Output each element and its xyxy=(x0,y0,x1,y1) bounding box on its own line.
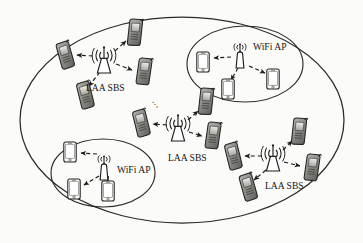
wifi-ap-top-right-icon[interactable] xyxy=(234,43,246,68)
link-ap-bl-sta1 xyxy=(81,153,97,154)
ue-phone-br-4[interactable] xyxy=(238,172,258,202)
ue-phone-br-3[interactable] xyxy=(302,152,322,182)
link-sbs-tl-ue1 xyxy=(77,55,93,56)
ue-phone-c-1[interactable] xyxy=(132,108,151,138)
link-sbs-c-ue3 xyxy=(189,132,202,136)
cluster-laa-sbs-bottom-right: LAA SBS xyxy=(224,116,322,202)
sta-tablet-tr-1[interactable] xyxy=(197,52,209,72)
link-sbs-tl-ue2 xyxy=(115,41,126,51)
wifi-ap-top-right-label: WiFi AP xyxy=(253,41,286,52)
ue-phone-tl-2[interactable] xyxy=(126,17,145,47)
link-ap-tr-sta2 xyxy=(231,68,238,80)
link-sbs-c-ue1 xyxy=(153,124,167,125)
link-sbs-c-ue2 xyxy=(188,111,198,120)
laa-sbs-center-icon[interactable] xyxy=(166,114,190,141)
network-topology-svg: LAA SBS LAA SBS xyxy=(0,0,363,243)
laa-sbs-bottom-right-icon[interactable] xyxy=(261,144,285,171)
link-sbs-br-ue3 xyxy=(284,162,300,166)
ue-phone-br-1[interactable] xyxy=(224,141,243,171)
link-sbs-tl-ue3 xyxy=(116,64,132,70)
ue-phone-tl-3[interactable] xyxy=(134,56,154,86)
ue-phone-c-3[interactable] xyxy=(203,120,223,150)
sta-tablet-tr-3[interactable] xyxy=(267,69,279,89)
wifi-ap-bottom-left-label: WiFi AP xyxy=(117,164,150,175)
link-ap-bl-sta2 xyxy=(84,176,99,185)
link-sbs-br-ue4 xyxy=(254,170,266,180)
link-ap-tr-sta3 xyxy=(249,66,265,73)
cluster-wifi-ap-bottom-left: WiFi AP xyxy=(64,142,151,201)
cluster-laa-sbs-center: LAA SBS xyxy=(132,86,223,163)
figure-canvas: LAA SBS LAA SBS xyxy=(0,0,363,243)
ue-phone-br-2[interactable] xyxy=(290,116,309,146)
laa-sbs-top-left-icon[interactable] xyxy=(92,46,116,73)
ue-phone-c-2[interactable] xyxy=(197,86,216,116)
sta-tablet-bl-2[interactable] xyxy=(68,179,80,199)
sta-tablet-bl-3[interactable] xyxy=(102,181,114,201)
laa-sbs-center-label: LAA SBS xyxy=(168,152,207,163)
link-ap-tr-sta1 xyxy=(214,57,231,58)
wifi-ap-bottom-left-icon[interactable] xyxy=(98,155,110,180)
cluster-ellipsis: ⋯ xyxy=(148,98,161,111)
sta-tablet-tr-2[interactable] xyxy=(222,79,234,99)
cluster-laa-sbs-top-left: LAA SBS xyxy=(55,17,154,110)
laa-sbs-bottom-right-label: LAA SBS xyxy=(265,180,304,191)
laa-sbs-top-left-label: LAA SBS xyxy=(86,82,125,93)
sta-tablet-bl-1[interactable] xyxy=(64,142,76,162)
